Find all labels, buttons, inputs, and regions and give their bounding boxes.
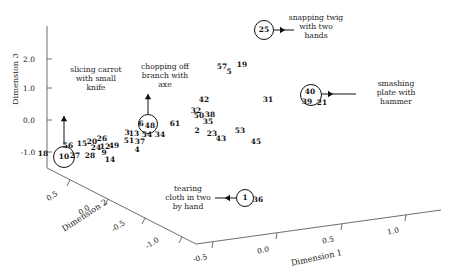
annotation-arrow-tearing-cloth bbox=[215, 195, 236, 201]
data-point-label: 25 bbox=[259, 26, 269, 33]
annotation-slicing-carrot: slicing carrot with small knife bbox=[70, 66, 121, 93]
axis-dim3 bbox=[47, 26, 52, 168]
data-point-label: 61 bbox=[170, 120, 180, 127]
highlight-circles bbox=[54, 21, 322, 207]
tick-label-dim3: 0.0 bbox=[23, 116, 35, 125]
data-point-label: 31 bbox=[263, 96, 273, 103]
data-point-label: 28 bbox=[85, 152, 95, 159]
data-point-label: 6 bbox=[138, 120, 143, 127]
data-point-label: 53 bbox=[235, 127, 245, 134]
data-point-label: 1 bbox=[242, 194, 247, 201]
data-point-label: 49 bbox=[109, 142, 119, 149]
data-point-label: 14 bbox=[105, 156, 115, 163]
data-point-label: 51 bbox=[124, 137, 134, 144]
data-point-label: 40 bbox=[305, 88, 315, 95]
arrowhead bbox=[328, 91, 333, 97]
data-point-label: 36 bbox=[253, 196, 263, 203]
annotation-smashing-plate: smashing plate with hammer bbox=[377, 80, 416, 107]
axis-dim1 bbox=[196, 210, 441, 248]
data-point-label: 34 bbox=[155, 131, 165, 138]
annotation-arrow-slicing-carrot bbox=[61, 116, 67, 144]
arrowhead bbox=[61, 116, 67, 121]
data-point-label: 45 bbox=[251, 138, 261, 145]
data-point-label: 21 bbox=[317, 99, 327, 106]
arrowhead bbox=[145, 94, 151, 99]
data-point-label: 2 bbox=[194, 127, 199, 134]
arrowhead bbox=[225, 195, 230, 201]
data-point-label: 56 bbox=[63, 142, 73, 149]
data-point-label: 4 bbox=[134, 146, 139, 153]
arrowhead bbox=[280, 27, 285, 33]
data-point-label: 43 bbox=[216, 135, 226, 142]
data-point-label: 48 bbox=[145, 122, 155, 129]
annotation-arrow-smashing-plate bbox=[322, 91, 356, 97]
annotation-snapping-twig: snapping twig with two hands bbox=[289, 14, 343, 41]
data-point-label: 18 bbox=[38, 150, 48, 157]
data-point-label: 15 bbox=[77, 140, 87, 147]
data-point-label: 39 bbox=[302, 98, 312, 105]
tick-label-dim3: -1.0 bbox=[21, 148, 35, 157]
annotation-arrow-chopping-branch bbox=[145, 94, 151, 114]
axis-title-dimension-3: Dimension 3 bbox=[10, 53, 20, 105]
data-point-label: 27 bbox=[70, 152, 80, 159]
data-point-label: 35 bbox=[203, 118, 213, 125]
annotation-tearing-cloth: tearing cloth in two by hand bbox=[165, 185, 210, 212]
data-point-label: 10 bbox=[59, 153, 69, 160]
tick-label-dim3: 2.0 bbox=[23, 55, 35, 64]
data-point-label: 54 bbox=[142, 131, 152, 138]
scatter-plot-figure: 1810272856152026241249914313513754434648… bbox=[0, 0, 455, 276]
data-point-label: 5 bbox=[226, 68, 231, 75]
data-point-label: 42 bbox=[199, 96, 209, 103]
data-point-label: 19 bbox=[237, 61, 247, 68]
tick-label-dim3: 1.0 bbox=[23, 84, 35, 93]
annotation-chopping-branch: chopping off branch with axe bbox=[141, 63, 189, 90]
